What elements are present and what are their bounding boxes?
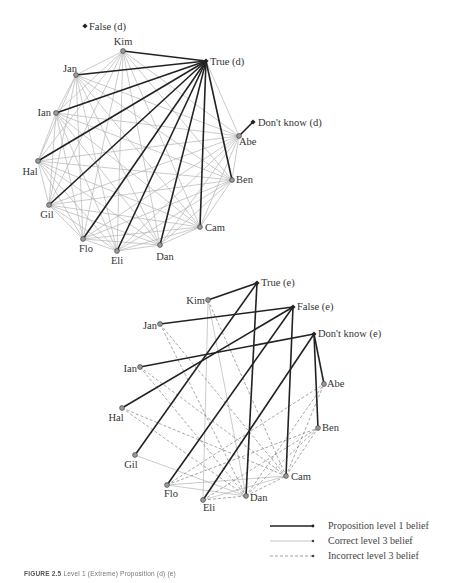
- proposition-belief-edge: [206, 61, 232, 180]
- correct-belief-edge: [160, 180, 232, 245]
- caption-label: FIGURE 2.5: [24, 570, 61, 577]
- correct-belief-edge: [167, 476, 286, 485]
- proposition-node-dk: Don't know (e): [311, 328, 381, 340]
- node-dot-icon: [36, 159, 41, 164]
- node-dot-icon: [138, 365, 143, 370]
- correct-belief-edge: [49, 205, 200, 227]
- agent-node-ian: Ian: [38, 107, 59, 118]
- node-dot-icon: [244, 494, 249, 499]
- agent-node-kim: Kim: [186, 295, 210, 306]
- legend-label: Incorrect level 3 belief: [328, 550, 419, 561]
- agent-label: Dan: [156, 251, 174, 262]
- agent-node-eli: Eli: [201, 498, 216, 513]
- agent-label: Hal: [108, 412, 123, 423]
- agent-label: Eli: [111, 255, 123, 266]
- agent-node-dan: Dan: [156, 243, 174, 262]
- node-dot-icon: [230, 178, 235, 183]
- proposition-node-t: True (e): [254, 277, 295, 289]
- caption-text: Level 1 (Extreme) Proposition (d) (e): [63, 570, 176, 577]
- diagram-d-correct-belief-edges: [38, 51, 239, 251]
- proposition-belief-edge: [123, 51, 206, 61]
- agent-node-hal: Hal: [108, 406, 124, 423]
- incorrect-belief-edge: [286, 428, 318, 476]
- proposition-belief-edge: [160, 307, 293, 324]
- legend: Proposition level 1 belief Correct level…: [270, 520, 429, 561]
- agent-node-ian: Ian: [124, 363, 143, 374]
- node-dot-icon: [158, 322, 163, 327]
- node-dot-icon: [165, 483, 170, 488]
- agent-label: Flo: [79, 243, 93, 254]
- agent-node-cam: Cam: [284, 471, 311, 482]
- diamond-marker-icon: [82, 23, 87, 28]
- agent-label: Abe: [327, 378, 345, 389]
- proposition-belief-edge: [208, 283, 257, 300]
- legend-arrowhead-icon: [312, 525, 315, 528]
- agent-node-dan: Dan: [244, 492, 269, 503]
- correct-belief-edge: [208, 300, 246, 496]
- proposition-belief-edge: [239, 122, 253, 136]
- agent-label: Flo: [164, 488, 178, 499]
- proposition-label: True (d): [210, 56, 245, 68]
- node-dot-icon: [316, 426, 321, 431]
- agent-node-eli: Eli: [111, 249, 123, 266]
- agent-node-hal: Hal: [22, 159, 40, 177]
- agent-label: Ben: [236, 174, 254, 185]
- legend-item-thick: Proposition level 1 belief: [270, 520, 429, 531]
- legend-label: Correct level 3 belief: [328, 535, 413, 546]
- node-dot-icon: [284, 474, 289, 479]
- node-dot-icon: [198, 225, 203, 230]
- proposition-belief-edge: [140, 334, 314, 367]
- proposition-belief-edge: [286, 307, 293, 476]
- agent-node-jan: Jan: [143, 320, 162, 331]
- node-dot-icon: [121, 49, 126, 54]
- node-dot-icon: [158, 243, 163, 248]
- node-dot-icon: [115, 249, 120, 254]
- correct-belief-edge: [83, 227, 200, 239]
- agent-label: Kim: [186, 295, 205, 306]
- node-dot-icon: [133, 453, 138, 458]
- node-dot-icon: [322, 382, 327, 387]
- proposition-belief-edge: [200, 61, 206, 227]
- agent-node-flo: Flo: [164, 483, 178, 499]
- incorrect-belief-edge: [122, 408, 246, 496]
- correct-belief-edge: [206, 61, 239, 136]
- legend-label: Proposition level 1 belief: [328, 520, 429, 531]
- node-dot-icon: [47, 203, 52, 208]
- correct-belief-edge: [38, 161, 83, 239]
- belief-network-figure: KimJanIanHalGilFloEliDanCamBenAbeTrue (d…: [0, 0, 449, 583]
- agent-label: Gil: [124, 459, 138, 470]
- node-dot-icon: [120, 406, 125, 411]
- agent-label: Jan: [63, 63, 78, 74]
- agent-node-abe: Abe: [322, 378, 345, 389]
- diagram-e-correct-belief-edges: [135, 300, 286, 500]
- correct-belief-edge: [200, 180, 232, 227]
- agent-label: Ben: [322, 422, 340, 433]
- agent-label: Jan: [143, 320, 158, 331]
- proposition-node-f: False (d): [82, 21, 126, 33]
- correct-belief-edge: [160, 227, 200, 245]
- legend-item-thin: Correct level 3 belief: [270, 535, 413, 546]
- agent-label: Ian: [38, 107, 52, 118]
- agent-node-kim: Kim: [114, 36, 133, 53]
- figure: KimJanIanHalGilFloEliDanCamBenAbeTrue (d…: [0, 0, 449, 583]
- agent-label: Eli: [203, 502, 215, 513]
- agent-label: Ian: [124, 363, 138, 374]
- proposition-label: False (d): [89, 21, 127, 33]
- agent-label: Gil: [40, 209, 54, 220]
- agent-node-ben: Ben: [316, 422, 340, 433]
- incorrect-belief-edge: [203, 428, 318, 500]
- incorrect-belief-edge: [208, 300, 286, 476]
- proposition-node-f: False (e): [290, 301, 334, 313]
- correct-belief-edge: [56, 51, 123, 113]
- agent-label: Kim: [114, 36, 133, 47]
- proposition-node-t: True (d): [203, 56, 244, 68]
- agent-label: Hal: [22, 166, 37, 177]
- correct-belief-edge: [117, 245, 160, 251]
- node-dot-icon: [81, 237, 86, 242]
- proposition-label: Don't know (d): [258, 117, 322, 129]
- agent-node-jan: Jan: [63, 63, 78, 77]
- proposition-belief-edge: [160, 61, 206, 245]
- correct-belief-edge: [38, 113, 56, 161]
- incorrect-belief-edge: [246, 384, 324, 496]
- proposition-label: True (e): [261, 277, 295, 289]
